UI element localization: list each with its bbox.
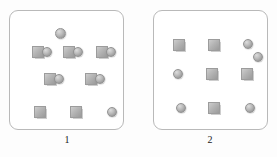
panel-2-label: 2 xyxy=(200,134,220,146)
panel-2-square-r2-c3[interactable] xyxy=(241,68,253,80)
panel-2-circle-r1-c3[interactable] xyxy=(243,39,253,49)
panel-2[interactable] xyxy=(153,10,268,130)
panel-2-circle-r3-c3[interactable] xyxy=(245,103,255,113)
panel-1-circle-r1-c3[interactable] xyxy=(106,47,116,57)
figure-canvas: 12 xyxy=(0,0,277,157)
panel-1-square-r3-c1[interactable] xyxy=(34,106,46,118)
panel-1-square-r3-c2[interactable] xyxy=(70,106,82,118)
panel-2-circle-r3-c1[interactable] xyxy=(176,103,186,113)
panel-2-square-r1-c2[interactable] xyxy=(208,39,220,51)
panel-1-circle-r3-c3[interactable] xyxy=(107,107,117,117)
panel-1-circle-r2-c2[interactable] xyxy=(95,74,105,84)
panel-1-circle-r1-c2[interactable] xyxy=(73,47,83,57)
panel-2-circle-r2-c1[interactable] xyxy=(173,69,183,79)
panel-1-circle-r1-c1[interactable] xyxy=(42,47,52,57)
panel-2-circle-r1-c3-offset[interactable] xyxy=(253,52,263,62)
panel-1-circle-top-center[interactable] xyxy=(55,28,66,39)
panel-2-square-r2-c2[interactable] xyxy=(206,68,218,80)
panel-1[interactable] xyxy=(9,10,124,130)
panel-1-label: 1 xyxy=(57,134,77,146)
panel-2-square-r1-c1[interactable] xyxy=(173,39,185,51)
panel-2-square-r3-c2[interactable] xyxy=(208,102,220,114)
panel-1-circle-r2-c1[interactable] xyxy=(54,74,64,84)
